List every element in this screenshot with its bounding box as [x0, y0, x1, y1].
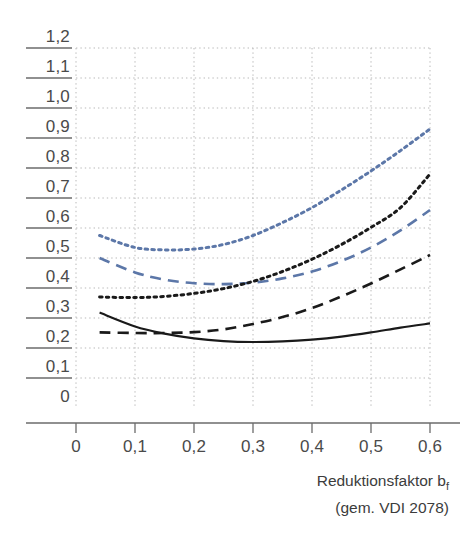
- curve-blue-dotted: [100, 129, 430, 250]
- x-axis-title-text: Reduktionsfaktor b: [317, 472, 446, 489]
- x-axis-tick-label: 0,3: [233, 438, 273, 455]
- x-axis-tick-label: 0,2: [174, 438, 214, 455]
- curve-black-dashed: [100, 255, 430, 333]
- data-curves: [100, 129, 430, 342]
- x-axis-tick-label: 0,6: [410, 438, 450, 455]
- y-axis-tick-label: 0,4: [24, 268, 70, 285]
- y-axis-tick-label: 1,1: [24, 58, 70, 75]
- x-axis-tick-label: 0,5: [351, 438, 391, 455]
- x-axis-title: Reduktionsfaktor bf (gem. VDI 2078): [317, 470, 449, 518]
- y-axis-tick-label: 0,5: [24, 238, 70, 255]
- x-axis-title-main: Reduktionsfaktor bf: [317, 470, 449, 497]
- y-axis-tick-label: 0,9: [24, 118, 70, 135]
- x-axis-tick-marks: [76, 423, 430, 433]
- y-axis-tick-label: 0,1: [24, 358, 70, 375]
- y-axis-tick-label: 0,6: [24, 208, 70, 225]
- gridlines: [76, 48, 430, 408]
- y-axis-tick-label: 1,0: [24, 88, 70, 105]
- x-axis-title-subscript: f: [446, 480, 449, 492]
- y-axis-tick-label: 0: [24, 388, 70, 405]
- chart-figure: 00,10,20,30,40,50,60,70,80,91,01,11,2 00…: [0, 0, 471, 545]
- x-axis-tick-label: 0,1: [115, 438, 155, 455]
- x-axis-tick-label: 0: [56, 438, 96, 455]
- y-axis-tick-label: 1,2: [24, 28, 70, 45]
- x-axis-tick-label: 0,4: [292, 438, 332, 455]
- curve-black-solid: [100, 313, 430, 342]
- y-axis-tick-label: 0,8: [24, 148, 70, 165]
- chart-canvas: [0, 0, 471, 545]
- y-axis-tick-label: 0,7: [24, 178, 70, 195]
- y-axis-tick-label: 0,2: [24, 328, 70, 345]
- x-axis-title-note: (gem. VDI 2078): [317, 497, 449, 518]
- y-axis-tick-label: 0,3: [24, 298, 70, 315]
